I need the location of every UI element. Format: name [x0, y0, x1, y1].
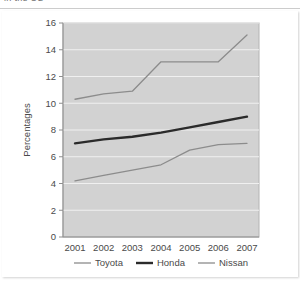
clipped-header-text: in the US [4, 0, 44, 3]
chart-figure: in the US 0246810121416 2001200220032004… [0, 0, 300, 281]
y-axis-ticks: 0246810121416 [45, 17, 63, 242]
y-tick-label: 6 [51, 151, 56, 162]
x-tick-label: 2001 [64, 242, 85, 253]
legend-label-toyota: Toyota [95, 257, 124, 268]
chart-legend: ToyotaHondaNissan [74, 257, 248, 268]
y-tick-label: 12 [45, 71, 56, 82]
x-axis-ticks: 2001200220032004200520062007 [64, 242, 257, 253]
y-tick-label: 14 [45, 44, 56, 55]
y-tick-label: 10 [45, 98, 56, 109]
y-tick-label: 4 [51, 178, 56, 189]
header-divider [0, 8, 300, 9]
y-axis-title: Percentages [21, 103, 32, 157]
x-tick-label: 2003 [122, 242, 143, 253]
line-chart-svg: 0246810121416 20012002200320042005200620… [2, 11, 298, 277]
y-tick-label: 8 [51, 124, 56, 135]
legend-label-honda: Honda [157, 257, 186, 268]
y-tick-label: 2 [51, 205, 56, 216]
x-tick-label: 2002 [93, 242, 114, 253]
x-tick-label: 2005 [179, 242, 200, 253]
y-tick-label: 0 [51, 231, 56, 242]
x-tick-label: 2004 [150, 242, 171, 253]
chart-card: 0246810121416 20012002200320042005200620… [2, 11, 298, 277]
y-tick-label: 16 [45, 17, 56, 28]
legend-label-nissan: Nissan [219, 257, 248, 268]
x-tick-label: 2007 [236, 242, 257, 253]
x-tick-label: 2006 [208, 242, 229, 253]
